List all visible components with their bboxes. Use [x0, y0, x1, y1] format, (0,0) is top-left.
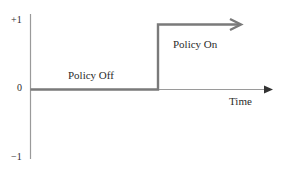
y-tick-zero: 0 [17, 83, 22, 93]
policy-step-line [31, 25, 241, 90]
time-axis-arrowhead-icon [264, 86, 273, 94]
policy-on-label: Policy On [173, 39, 217, 50]
policy-off-label: Policy Off [68, 70, 114, 81]
time-axis-label: Time [229, 96, 252, 107]
y-tick-plus-one: +1 [11, 15, 22, 25]
y-tick-minus-one: −1 [11, 152, 22, 162]
policy-step-diagram: +1 0 −1 Policy Off Policy On Time [0, 0, 287, 172]
diagram-canvas [0, 0, 287, 172]
